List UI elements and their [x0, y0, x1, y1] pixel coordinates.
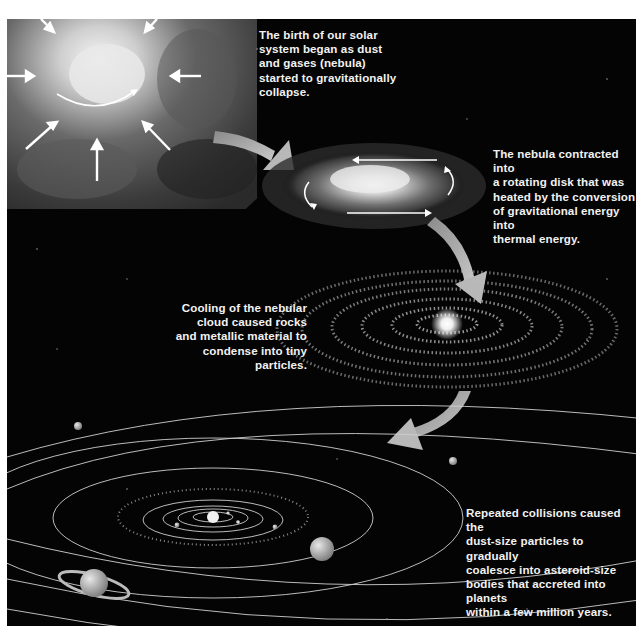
caption-accretion: Repeated collisions caused the dust-size… [466, 506, 636, 620]
caption-condensation: Cooling of the nebular cloud caused rock… [176, 301, 307, 372]
curved-arrow-down-left-icon [387, 391, 471, 450]
collapsing-nebula-icon [7, 19, 297, 254]
solar-system-formation-diagram: The birth of our solar system began as d… [7, 19, 636, 626]
ringed-disk-icon [277, 271, 617, 387]
ringed-planet [57, 566, 132, 604]
caption-nebula-collapse: The birth of our solar system began as d… [259, 28, 396, 99]
caption-rotating-disk: The nebula contracted into a rotating di… [493, 147, 636, 246]
rotating-disk-icon [262, 143, 486, 229]
curved-arrow-down-icon [427, 217, 487, 304]
